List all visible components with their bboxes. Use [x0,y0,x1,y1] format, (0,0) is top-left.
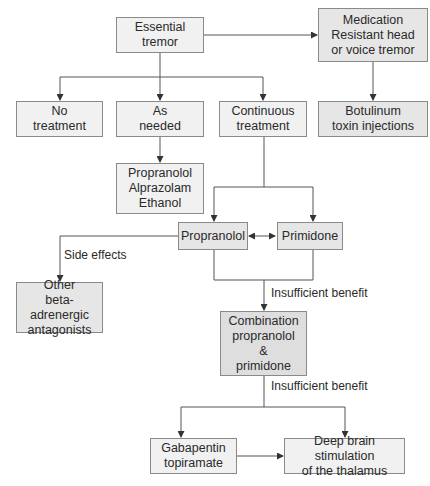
node-continuous-treatment: Continuous treatment [219,101,307,137]
node-propranolol: Propranolol [178,222,248,250]
node-essential-tremor: Essential tremor [116,17,204,53]
node-label: Deep brain stimulation of the thalamus [285,434,404,479]
node-label: Propranolol Alprazolam Ethanol [128,166,192,211]
node-combination: Combination propranolol & primidone [220,311,307,376]
node-primidone: Primidone [277,222,343,250]
node-deep-brain-stimulation: Deep brain stimulation of the thalamus [284,438,405,474]
node-medication-resistant: Medication Resistant head or voice tremo… [318,8,428,62]
node-label: Botulinum toxin injections [332,104,414,134]
edge-label-side-effects: Side effects [64,248,126,262]
node-label: Combination propranolol & primidone [228,314,298,374]
node-label: Continuous treatment [231,104,294,134]
node-label: No treatment [33,104,86,134]
edge-label-insufficient-benefit-1: Insufficient benefit [271,286,368,300]
node-no-treatment: No treatment [16,101,103,137]
node-as-needed: As needed [116,101,204,137]
node-label: As needed [139,104,181,134]
node-other-beta-antagonists: Other beta-adrenergic antagonists [16,282,103,333]
node-label: Primidone [282,229,338,244]
node-label: Gabapentin topiramate [161,441,226,471]
node-label: Essential tremor [135,20,186,50]
node-botulinum: Botulinum toxin injections [318,101,428,137]
node-gabapentin-topiramate: Gabapentin topiramate [150,438,237,474]
node-label: Medication Resistant head or voice tremo… [331,13,414,58]
node-as-needed-drugs: Propranolol Alprazolam Ethanol [116,163,204,214]
edge-label-insufficient-benefit-2: Insufficient benefit [271,379,368,393]
node-label: Other beta-adrenergic antagonists [17,278,102,338]
node-label: Propranolol [181,229,245,244]
